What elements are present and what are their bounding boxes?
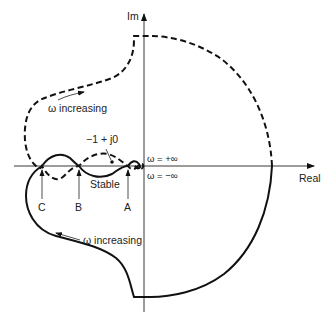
crossing-a-label: A <box>124 201 131 213</box>
stable-region-label: Stable <box>90 178 120 190</box>
imaginary-axis-label: Im <box>127 10 139 22</box>
critical-point-dot <box>110 160 114 164</box>
omega-plus-infinity-label: ω = +∞ <box>147 153 178 164</box>
nyquist-diagram: Im Real −1 + j0 ω = +∞ ω = −∞ Stable C B… <box>0 0 336 321</box>
crossing-c-label: C <box>38 201 46 213</box>
omega-increasing-upper: ω increasing <box>48 92 107 114</box>
real-axis-label: Real <box>299 172 321 184</box>
omega-minus-infinity-label: ω = −∞ <box>147 170 178 181</box>
omega-increasing-upper-label: ω increasing <box>48 102 107 114</box>
crossing-point-c: C <box>38 170 46 213</box>
crossing-point-b: B <box>75 170 82 213</box>
critical-point-label: −1 + j0 <box>86 133 118 145</box>
crossing-point-a: A <box>124 170 131 213</box>
omega-increasing-lower-label: ω increasing <box>83 234 142 246</box>
critical-point: −1 + j0 <box>86 133 118 164</box>
crossing-b-label: B <box>75 201 82 213</box>
